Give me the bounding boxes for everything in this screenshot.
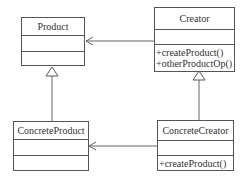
operation: +createProduct() <box>159 158 233 169</box>
operation: +otherProductOp() <box>156 58 234 69</box>
operation: +createProduct() <box>156 47 234 58</box>
class-attributes <box>155 30 234 45</box>
class-concrete-creator[interactable]: ConcreteCreator +createProduct() <box>157 120 234 171</box>
class-name: ConcreteProduct <box>14 122 88 140</box>
class-operations: +createProduct() +otherProductOp() <box>155 45 234 69</box>
class-name: Product <box>22 18 84 36</box>
class-attributes <box>14 140 88 156</box>
class-product[interactable]: Product <box>21 17 85 66</box>
class-attributes <box>158 141 233 156</box>
class-attributes <box>22 36 84 52</box>
triangle-arrow-icon <box>193 71 205 80</box>
class-name: Creator <box>155 8 234 30</box>
class-name: ConcreteCreator <box>158 121 233 141</box>
class-creator[interactable]: Creator +createProduct() +otherProductOp… <box>154 7 235 72</box>
triangle-arrow-icon <box>46 67 58 76</box>
class-operations: +createProduct() <box>158 156 233 169</box>
class-concrete-product[interactable]: ConcreteProduct <box>13 121 89 171</box>
